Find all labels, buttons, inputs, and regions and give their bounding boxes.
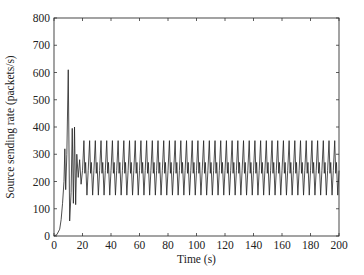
y-tick-label: 300 xyxy=(33,148,51,160)
x-tick-label: 200 xyxy=(330,239,348,251)
y-tick-label: 0 xyxy=(44,230,50,242)
y-tick-label: 600 xyxy=(33,67,51,79)
y-axis-ticks: 0100200300400500600700800 xyxy=(33,12,339,242)
y-tick-label: 800 xyxy=(33,12,51,24)
x-tick-label: 120 xyxy=(216,239,234,251)
y-tick-label: 400 xyxy=(33,121,51,133)
y-tick-label: 200 xyxy=(33,176,51,188)
x-tick-label: 40 xyxy=(105,239,117,251)
x-tick-label: 80 xyxy=(162,239,174,251)
line-chart: 020406080100120140160180200 010020030040… xyxy=(0,0,364,275)
x-tick-label: 20 xyxy=(77,239,89,251)
y-axis-label: Source sending rate (packets/s) xyxy=(4,55,17,199)
x-tick-label: 180 xyxy=(302,239,320,251)
x-tick-label: 0 xyxy=(51,239,57,251)
x-tick-label: 160 xyxy=(273,239,291,251)
y-tick-label: 700 xyxy=(33,39,51,51)
x-tick-label: 100 xyxy=(188,239,206,251)
axes-frame xyxy=(54,18,339,236)
y-tick-label: 100 xyxy=(33,203,51,215)
x-axis-ticks: 020406080100120140160180200 xyxy=(51,18,348,251)
series-line-source-sending-rate xyxy=(54,70,339,236)
x-axis-label: Time (s) xyxy=(177,253,216,266)
y-tick-label: 500 xyxy=(33,94,51,106)
x-tick-label: 140 xyxy=(245,239,263,251)
x-tick-label: 60 xyxy=(134,239,146,251)
